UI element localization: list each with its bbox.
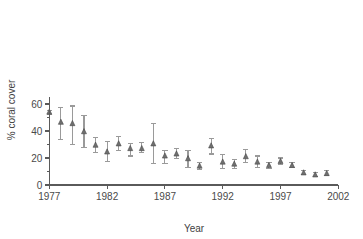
- y-axis-tick-label: 0: [37, 180, 43, 191]
- x-axis-tick-label: 1992: [212, 191, 235, 202]
- x-axis-tick-label: 1977: [38, 191, 61, 202]
- x-axis-tick-label: 2002: [327, 191, 350, 202]
- x-axis-title: Year: [184, 223, 205, 234]
- data-point-marker: [139, 145, 144, 150]
- x-axis-tick-label: 1987: [154, 191, 177, 202]
- data-point-marker: [128, 145, 133, 150]
- data-point-marker: [93, 142, 98, 147]
- data-point-marker: [162, 153, 167, 158]
- chart-plot-area: 0204060197719821987199219972002 Year % c…: [0, 0, 363, 239]
- y-axis-tick-label: 20: [31, 153, 43, 164]
- data-point-marker: [116, 141, 121, 146]
- data-point-marker: [58, 119, 63, 124]
- data-point-marker: [255, 159, 260, 164]
- data-point-marker: [174, 151, 179, 156]
- data-point-marker: [220, 159, 225, 164]
- data-point-marker: [266, 162, 271, 167]
- x-axis-tick-label: 1997: [269, 191, 292, 202]
- data-point-marker: [243, 154, 248, 159]
- data-point-marker: [186, 156, 191, 161]
- data-point-marker: [81, 129, 86, 134]
- error-bars-layer: [47, 106, 330, 176]
- data-point-marker: [278, 158, 283, 163]
- data-point-marker: [151, 141, 156, 146]
- data-point-marker: [70, 120, 75, 125]
- coral-cover-figure: 0204060197719821987199219972002 Year % c…: [0, 0, 363, 239]
- y-axis-tick-label: 60: [31, 99, 43, 110]
- axes-layer: [45, 97, 338, 189]
- y-axis-title: % coral cover: [6, 79, 17, 140]
- y-axis-tick-label: 40: [31, 126, 43, 137]
- data-point-marker: [209, 143, 214, 148]
- data-point-marker: [105, 149, 110, 154]
- data-point-marker: [197, 163, 202, 168]
- x-axis-tick-label: 1982: [96, 191, 119, 202]
- data-point-marker: [232, 161, 237, 166]
